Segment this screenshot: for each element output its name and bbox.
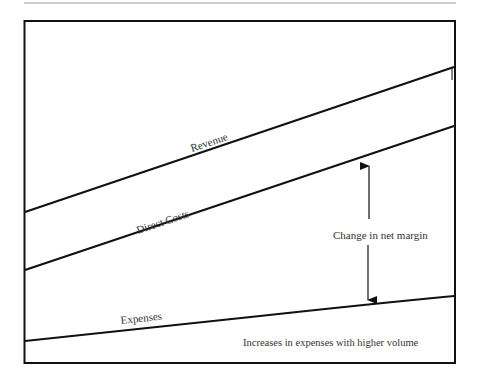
direct-costs-label: Direct Costs	[135, 207, 191, 236]
revenue-line	[25, 67, 454, 212]
expenses-line	[25, 296, 454, 341]
diagram-canvas: Revenue Direct Costs Expenses Change in …	[0, 0, 480, 386]
expense-note: Increases in expenses with higher volume	[243, 337, 419, 348]
direct-costs-line	[25, 126, 454, 270]
diagram-frame	[25, 21, 456, 363]
expenses-label: Expenses	[120, 310, 163, 326]
net-margin-label: Change in net margin	[333, 229, 428, 241]
